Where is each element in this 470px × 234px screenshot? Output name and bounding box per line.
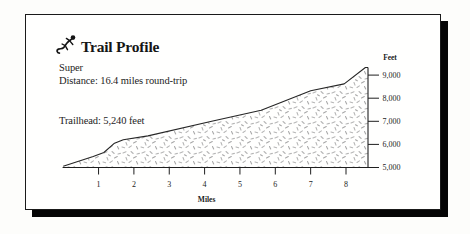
y-tick-label: 8,000 (383, 94, 401, 103)
y-tick-label: 6,000 (383, 140, 401, 149)
elevation-chart: 123456785,0006,0007,0008,0009,000FeetMil… (26, 15, 439, 208)
x-tick-label: 1 (97, 180, 101, 189)
elevation-area (63, 68, 368, 168)
x-tick-label: 2 (132, 180, 136, 189)
x-tick-label: 8 (344, 180, 348, 189)
x-tick-label: 7 (309, 180, 313, 189)
x-tick-label: 6 (273, 180, 277, 189)
y-tick-label: 9,000 (383, 71, 401, 80)
x-tick-label: 4 (203, 180, 207, 189)
y-tick-label: 7,000 (383, 117, 401, 126)
x-tick-label: 5 (238, 180, 242, 189)
trail-profile-card: Trail Profile Super Distance: 16.4 miles… (25, 14, 441, 210)
y-axis-title: Feet (383, 53, 397, 62)
x-axis-title: Miles (198, 195, 216, 204)
x-tick-label: 3 (167, 180, 171, 189)
y-tick-label: 5,000 (383, 163, 401, 172)
